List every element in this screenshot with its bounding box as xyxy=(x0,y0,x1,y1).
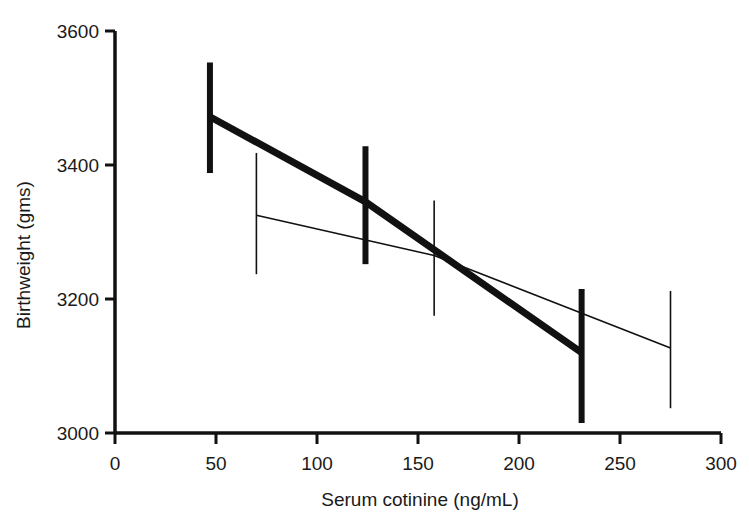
x-tick-label-200: 200 xyxy=(503,453,535,474)
chart-canvas: 3600 3400 3200 3000 Birthweight (gms) 0 … xyxy=(0,0,749,520)
x-tick-label-100: 100 xyxy=(301,453,333,474)
y-tick-label-3000: 3000 xyxy=(57,423,99,444)
y-tick-label-3600: 3600 xyxy=(57,21,99,42)
chart-background xyxy=(0,0,749,520)
y-tick-label-3200: 3200 xyxy=(57,289,99,310)
x-tick-label-250: 250 xyxy=(604,453,636,474)
x-axis-title: Serum cotinine (ng/mL) xyxy=(321,489,518,510)
x-tick-label-0: 0 xyxy=(110,453,121,474)
chart-figure: 3600 3400 3200 3000 Birthweight (gms) 0 … xyxy=(0,0,749,520)
x-tick-label-300: 300 xyxy=(705,453,737,474)
x-tick-label-150: 150 xyxy=(402,453,434,474)
x-tick-label-50: 50 xyxy=(205,453,226,474)
y-axis-title: Birthweight (gms) xyxy=(13,181,34,329)
y-tick-label-3400: 3400 xyxy=(57,155,99,176)
